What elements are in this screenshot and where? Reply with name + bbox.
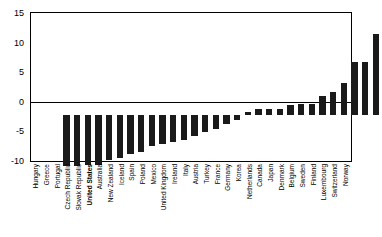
x-axis-category-label: Finland (310, 164, 317, 185)
bar (373, 34, 379, 115)
bar-slot (350, 26, 361, 174)
bar (138, 115, 144, 152)
x-label-slot: Mexico (148, 164, 159, 237)
x-axis-category-label: Sweden (300, 164, 307, 188)
x-axis-category-label: Poland (140, 164, 147, 184)
x-axis-category-label: Australia (97, 164, 104, 189)
x-label-slot: Netherlands (244, 164, 255, 237)
x-label-slot: Portugal (52, 164, 63, 237)
bar (74, 115, 80, 166)
x-label-slot: Germany (223, 164, 234, 237)
x-axis-category-label: Switzerland (332, 164, 339, 198)
x-axis-category-label: Korea (236, 164, 243, 181)
bar (63, 115, 69, 166)
bars-layer (62, 26, 382, 174)
x-label-slot: Spain (127, 164, 138, 237)
bar (85, 115, 91, 165)
x-label-slot: Iceland (116, 164, 127, 237)
bar-slot (243, 26, 254, 174)
x-label-slot: Japan (266, 164, 277, 237)
bar-slot (126, 26, 137, 174)
bar-slot (371, 26, 382, 174)
x-label-slot: Turkey (202, 164, 213, 237)
x-axis-category-label: Ireland (172, 164, 179, 184)
bar-slot (286, 26, 297, 174)
y-axis-tick-label: -10 (11, 157, 24, 166)
x-axis-category-label: Mexico (150, 164, 157, 185)
bar (191, 115, 197, 136)
y-axis-tick-label: -5 (16, 127, 24, 136)
x-axis-category-label: Germany (225, 164, 232, 191)
bar-slot (265, 26, 276, 174)
x-label-slot: Luxembourg (319, 164, 330, 237)
x-axis-category-label: Belgium (289, 164, 296, 187)
bar-slot (233, 26, 244, 174)
bar (298, 104, 304, 115)
x-axis-category-label: Canada (257, 164, 264, 187)
x-label-slot: Slovak Republic (74, 164, 85, 237)
bar-slot (318, 26, 329, 174)
bar (351, 62, 357, 115)
bar-slot (147, 26, 158, 174)
x-axis-category-label: Czech Republic (65, 164, 72, 210)
bar-slot (307, 26, 318, 174)
x-label-slot: Switzerland (330, 164, 341, 237)
bar (255, 109, 261, 114)
x-axis-category-label: New Zealand (108, 164, 115, 202)
x-axis-category-label: Spain (129, 164, 136, 181)
bar (95, 115, 101, 165)
x-axis-category-label: Iceland (118, 164, 125, 185)
x-axis-category-label: Austria (193, 164, 200, 184)
x-label-slot: United States (84, 164, 95, 237)
x-label-slot: Finland (308, 164, 319, 237)
x-label-slot: Italy (180, 164, 191, 237)
bar (362, 62, 368, 115)
x-label-slot: Czech Republic (63, 164, 74, 237)
bar (117, 115, 123, 158)
bar-slot (297, 26, 308, 174)
bar-slot (179, 26, 190, 174)
bar-slot (329, 26, 340, 174)
bar (127, 115, 133, 154)
x-label-slot: Denmark (276, 164, 287, 237)
bar-slot (62, 26, 73, 174)
bar (149, 115, 155, 146)
bar (287, 105, 293, 114)
bar-slot (190, 26, 201, 174)
bar (202, 115, 208, 132)
y-axis-tick-label: 10 (14, 38, 24, 47)
y-axis: -10-5051015 (0, 0, 30, 163)
bar (245, 112, 251, 115)
y-axis-tick-label: 0 (19, 97, 24, 106)
x-axis-category-label: Japan (268, 164, 275, 182)
bar-slot (115, 26, 126, 174)
x-label-slot: Greece (42, 164, 53, 237)
x-axis-category-label: Slovak Republic (76, 164, 83, 211)
x-label-slot: Norway (340, 164, 351, 237)
x-axis-category-label: Italy (182, 164, 189, 176)
x-axis-category-label: Denmark (278, 164, 285, 190)
x-label-slot: Belgium (287, 164, 298, 237)
bar-slot (361, 26, 372, 174)
bar (266, 109, 272, 115)
bar-slot (275, 26, 286, 174)
bar (106, 115, 112, 160)
x-label-slot: Poland (138, 164, 149, 237)
x-axis-category-label: Greece (44, 164, 51, 185)
bar (159, 115, 165, 144)
plot-area (30, 12, 352, 162)
x-axis-category-labels: HungaryGreecePortugalCzech RepublicSlova… (31, 164, 351, 237)
bar-slot (211, 26, 222, 174)
bar-slot (254, 26, 265, 174)
bar-slot (73, 26, 84, 174)
bar (309, 104, 315, 115)
x-label-slot: Sweden (298, 164, 309, 237)
bar-slot (169, 26, 180, 174)
x-axis-category-label: Netherlands (246, 164, 253, 199)
x-label-slot: Hungary (31, 164, 42, 237)
x-axis-category-label: Norway (342, 164, 349, 186)
x-label-slot: Canada (255, 164, 266, 237)
bar-slot (222, 26, 233, 174)
x-label-slot: Australia (95, 164, 106, 237)
